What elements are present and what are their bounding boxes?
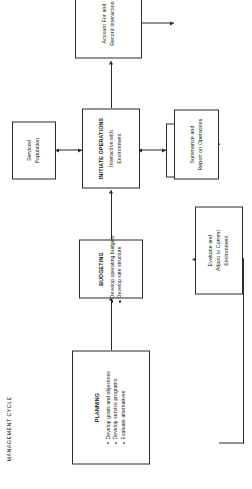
node-planning-bullet-2: Develop service programs <box>112 371 120 444</box>
node-budgeting-bullet-2: Develop rate structure <box>116 235 124 302</box>
node-initiate-operations-subtitle-2: Environment <box>116 133 124 163</box>
node-evaluate-adjust-line-2: Adjust to Current <box>215 230 223 271</box>
connector-feedback-riser-right <box>219 442 244 443</box>
node-serviced-population-line-2: Population <box>34 137 42 163</box>
connector-initiate-to-account-line <box>111 62 112 108</box>
node-summarize-report-line-1: Summarize and <box>189 125 197 163</box>
node-evaluate-adjust[interactable]: Evaluate and Adjust to Current Environme… <box>195 206 243 294</box>
connector-account-to-summarize-arrowhead <box>170 22 174 26</box>
node-evaluate-adjust-line-1: Evaluate and <box>207 234 215 266</box>
node-budgeting-title: BUDGETING <box>98 252 106 285</box>
node-account-record-line-1: Account For and <box>101 3 109 43</box>
management-cycle-diagram: MANAGEMENT CYCLE PLANNI <box>0 0 252 489</box>
node-initiate-operations-subtitle-1: Interaction with <box>108 130 116 167</box>
node-serviced-population-line-1: Serviced <box>26 139 34 160</box>
node-planning-bullet-1: Develop goals and objectives <box>105 371 113 444</box>
connector-feedback-run <box>243 258 244 443</box>
node-budgeting-bullets: Develop operating budgets Develop rate s… <box>109 235 125 302</box>
node-initiate-operations[interactable]: INITIATE OPERATIONS Interaction with Env… <box>82 108 140 188</box>
node-summarize-report-line-2: Report on Operations <box>197 118 205 170</box>
figure-page: MANAGEMENT CYCLE PLANNI <box>0 0 252 489</box>
node-planning-bullets: Develop goals and objectives Develop ser… <box>105 371 128 444</box>
node-planning[interactable]: PLANNING Develop goals and objectives De… <box>72 350 150 464</box>
connector-initiate-to-account-arrowhead <box>109 60 113 64</box>
connector-budgeting-to-initiate-arrowhead <box>109 189 113 193</box>
node-budgeting[interactable]: BUDGETING Develop operating budgets Deve… <box>79 239 143 298</box>
node-budgeting-bullet-1: Develop operating budgets <box>109 235 117 302</box>
connector-budgeting-to-initiate-line <box>111 191 112 239</box>
connector-planning-to-budgeting-line <box>111 298 112 350</box>
node-planning-title: PLANNING <box>94 392 102 421</box>
node-planning-bullet-3: Evaluate alternatives <box>120 371 128 444</box>
node-evaluate-adjust-line-3: Environment <box>223 235 231 265</box>
node-summarize-report[interactable]: Summarize and Report on Operations <box>174 109 219 179</box>
node-account-record[interactable]: Account For and Record Interaction <box>75 0 142 58</box>
figure-title: MANAGEMENT CYCLE <box>6 396 12 461</box>
node-serviced-population[interactable]: Serviced Population <box>12 121 56 179</box>
node-account-record-line-2: Record Interaction <box>109 1 117 46</box>
node-initiate-operations-title: INITIATE OPERATIONS <box>98 117 106 178</box>
connector-participating-providers-arrowhead-down <box>162 149 166 153</box>
